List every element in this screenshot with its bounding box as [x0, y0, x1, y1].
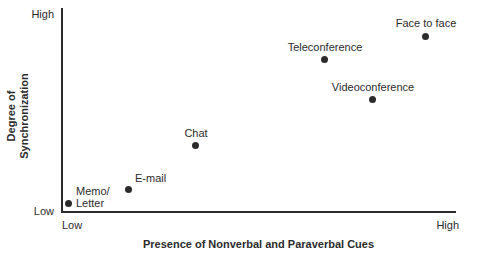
- data-label-memo-letter-line-2: Letter: [76, 197, 110, 209]
- data-label-memo-letter: Memo/ Letter: [76, 185, 110, 209]
- data-point-chat: [192, 142, 199, 149]
- data-label-face-to-face: Face to face: [396, 17, 457, 29]
- data-point-memo-letter: [65, 200, 72, 207]
- data-label-memo-letter-line-1: Memo/: [76, 185, 110, 197]
- scatter-chart-figure: High Low Low High Degree of Synchronizat…: [0, 0, 482, 256]
- data-point-face-to-face: [422, 33, 429, 40]
- data-label-videoconference: Videoconference: [332, 81, 414, 93]
- data-label-email: E-mail: [135, 172, 166, 184]
- data-point-videoconference: [369, 96, 376, 103]
- plot-area: Memo/ Letter E-mail Chat Videoconference…: [0, 0, 482, 256]
- data-point-email: [125, 186, 132, 193]
- data-label-teleconference: Teleconference: [288, 41, 363, 53]
- data-point-teleconference: [321, 56, 328, 63]
- data-label-chat: Chat: [184, 127, 207, 139]
